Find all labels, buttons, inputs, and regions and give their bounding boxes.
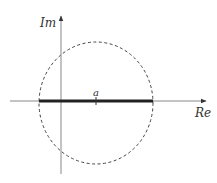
real-axis-label: Re: [194, 106, 211, 120]
center-point-label: a: [93, 87, 99, 98]
imaginary-axis-label: Im: [39, 16, 56, 30]
complex-plane-diagram: Im Re a: [0, 0, 217, 183]
